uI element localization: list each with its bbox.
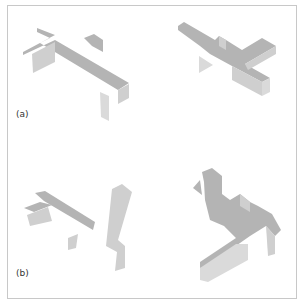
panel-a-right — [178, 22, 276, 96]
block-face-front — [199, 56, 213, 73]
panel-label: (a) — [16, 109, 29, 119]
block-face-top — [178, 22, 276, 82]
panel-label: (b) — [16, 268, 29, 278]
block-face-front — [100, 92, 109, 121]
block-face-top — [84, 34, 103, 52]
panel-b-right — [193, 168, 281, 282]
panel-a-left — [23, 28, 129, 121]
panel-b-left — [24, 184, 132, 271]
isometric-figure-diagram — [0, 0, 302, 306]
block-face-top — [193, 180, 202, 195]
block-face-side — [68, 234, 78, 250]
block-face-side — [106, 184, 132, 271]
